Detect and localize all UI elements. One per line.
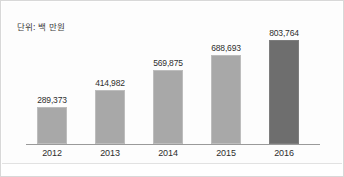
x-tick-2013: 2013 — [84, 148, 136, 158]
bars-layer: 289,373 414,982 569,875 688,693 803,764 — [26, 15, 320, 145]
bar-chart-figure: 단위: 백 만원 289,373 414,982 569,875 688,693… — [0, 0, 344, 177]
x-tick-2015: 2015 — [200, 148, 252, 158]
bar-2016[interactable] — [269, 40, 299, 144]
x-tick-2014: 2014 — [142, 148, 194, 158]
plot-area: 289,373 414,982 569,875 688,693 803,764 — [26, 15, 320, 145]
bar-value-label-2016: 803,764 — [254, 28, 314, 38]
x-tick-2012: 2012 — [26, 148, 78, 158]
x-axis-baseline — [26, 144, 320, 145]
x-axis-tick-labels: 2012 2013 2014 2015 2016 — [26, 148, 320, 164]
bar-group-2016: 803,764 — [258, 15, 310, 144]
bar-group-2013: 414,982 — [84, 15, 136, 144]
bar-group-2012: 289,373 — [26, 15, 78, 144]
bar-value-label-2013: 414,982 — [80, 78, 140, 88]
figure-footer-strip — [2, 163, 342, 176]
bar-2014[interactable] — [153, 70, 183, 144]
bar-group-2014: 569,875 — [142, 15, 194, 144]
bar-value-label-2014: 569,875 — [138, 58, 198, 68]
bar-group-2015: 688,693 — [200, 15, 252, 144]
bar-value-label-2015: 688,693 — [196, 43, 256, 53]
bar-2012[interactable] — [37, 107, 67, 144]
bar-2015[interactable] — [211, 55, 241, 144]
bar-value-label-2012: 289,373 — [22, 95, 82, 105]
x-tick-2016: 2016 — [258, 148, 310, 158]
bar-2013[interactable] — [95, 90, 125, 144]
